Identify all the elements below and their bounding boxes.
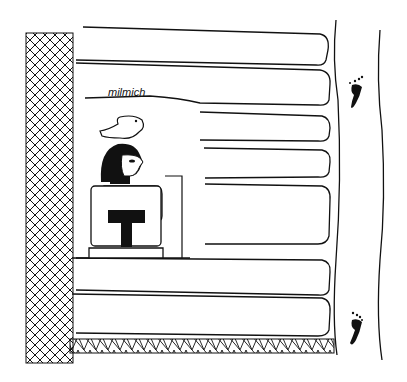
- hatched-wall: [26, 33, 73, 363]
- footprint-bottom: [350, 312, 363, 345]
- milmich-label: milmich: [108, 86, 145, 98]
- seated-figure: [89, 144, 182, 258]
- footprint-top: [349, 76, 363, 108]
- bird-hieroglyph: [100, 116, 143, 138]
- drawing: [0, 0, 407, 382]
- hatched-floor: [70, 339, 334, 353]
- corridor-walls: [334, 20, 383, 360]
